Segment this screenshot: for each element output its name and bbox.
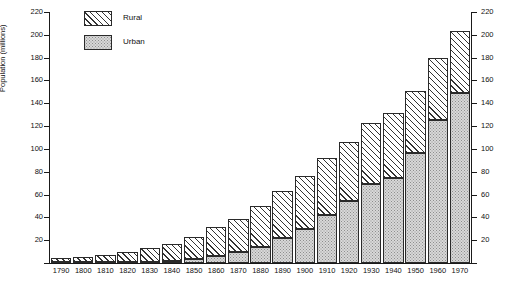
y-tick-left-200 [44,35,49,36]
bar-segment-rural-1790 [51,258,71,262]
bar-segment-urban-1970 [450,93,470,263]
y-tick-label-right-40: 40 [481,213,489,221]
y-tick-label-right-200: 200 [481,31,494,39]
y-tick-label-right-80: 80 [481,168,489,176]
y-axis-right-spine [471,12,472,264]
bar-segment-rural-1820 [117,252,137,262]
bar-segment-rural-1800 [73,257,93,263]
bar-1910 [317,158,337,263]
y-tick-label-right-220: 220 [481,8,494,16]
bar-segment-urban-1960 [428,120,448,263]
bar-1950 [405,91,425,263]
y-tick-label-right-60: 60 [481,191,489,199]
y-tick-right-100 [471,149,477,150]
bar-1860 [206,227,226,263]
bar-segment-rural-1960 [428,58,448,120]
y-tick-left-40 [44,217,49,218]
bar-segment-rural-1940 [383,113,403,178]
bar-segment-rural-1900 [295,176,315,228]
bar-1850 [184,237,204,263]
y-tick-label-left-20: 20 [35,236,43,244]
y-tick-label-right-20: 20 [481,236,489,244]
y-tick-left-140 [44,103,49,104]
bar-segment-urban-1870 [228,252,248,263]
y-tick-left-100 [44,149,49,150]
bar-1930 [361,123,381,263]
y-tick-right-220 [471,12,477,13]
bar-1800 [73,257,93,263]
bar-1920 [339,142,359,263]
bar-segment-rural-1890 [272,191,292,238]
y-tick-left-180 [44,58,49,59]
y-tick-right-80 [471,172,477,173]
bar-segment-urban-1910 [317,215,337,263]
bar-segment-urban-1890 [272,238,292,263]
bar-segment-urban-1840 [162,261,182,263]
y-tick-left-120 [44,126,49,127]
bar-segment-rural-1950 [405,91,425,153]
y-tick-label-left-100: 100 [30,145,43,153]
y-tick-left-80 [44,172,49,173]
y-tick-label-left-160: 160 [30,76,43,84]
x-tick-label-1970: 1970 [447,266,473,275]
y-tick-label-left-220: 220 [30,8,43,16]
plot-area: 20406080100120140160180200220 2040608010… [49,12,472,264]
y-tick-label-right-140: 140 [481,99,494,107]
bar-segment-rural-1860 [206,227,226,256]
y-tick-left-60 [44,195,49,196]
bar-1940 [383,113,403,263]
bar-1820 [117,252,137,263]
y-tick-right-160 [471,80,477,81]
bar-segment-urban-1950 [405,153,425,263]
y-tick-left-0 [44,263,49,264]
y-tick-label-left-80: 80 [35,168,43,176]
bar-1960 [428,58,448,263]
x-axis-spine [49,263,472,264]
y-tick-label-left-120: 120 [30,122,43,130]
bar-segment-rural-1870 [228,219,248,252]
bar-1870 [228,219,248,263]
bar-segment-urban-1880 [250,247,270,263]
y-tick-right-40 [471,217,477,218]
bar-1970 [450,31,470,263]
bar-segment-rural-1910 [317,158,337,215]
bar-segment-rural-1930 [361,123,381,184]
y-tick-right-140 [471,103,477,104]
bar-1810 [95,255,115,263]
bar-1840 [162,244,182,263]
bar-segment-urban-1860 [206,256,226,263]
y-tick-label-right-180: 180 [481,54,494,62]
bar-group [50,12,471,263]
bar-segment-urban-1900 [295,229,315,263]
bar-1890 [272,191,292,263]
bar-segment-rural-1920 [339,142,359,201]
y-tick-label-left-140: 140 [30,99,43,107]
bar-1880 [250,206,270,263]
y-tick-label-left-200: 200 [30,31,43,39]
bar-segment-rural-1880 [250,206,270,247]
bar-segment-rural-1850 [184,237,204,259]
bar-segment-rural-1840 [162,244,182,261]
bar-segment-rural-1970 [450,31,470,92]
bar-1830 [140,248,160,263]
bar-segment-urban-1940 [383,178,403,263]
y-tick-right-180 [471,58,477,59]
y-tick-right-200 [471,35,477,36]
bar-segment-rural-1830 [140,248,160,261]
y-tick-label-right-100: 100 [481,145,494,153]
y-tick-right-120 [471,126,477,127]
y-axis-title: Population (millions) [0,0,7,92]
y-tick-right-20 [471,240,477,241]
bar-segment-urban-1850 [184,259,204,263]
y-tick-label-right-120: 120 [481,122,494,130]
bar-segment-rural-1810 [95,255,115,263]
bar-segment-urban-1930 [361,184,381,263]
y-tick-left-20 [44,240,49,241]
y-tick-label-left-60: 60 [35,191,43,199]
y-tick-left-160 [44,80,49,81]
y-tick-label-left-40: 40 [35,213,43,221]
chart-figure: Population (millions) Rural Urban 204060… [0,0,517,285]
y-tick-right-0 [471,263,477,264]
y-tick-label-left-180: 180 [30,54,43,62]
bar-1900 [295,176,315,263]
